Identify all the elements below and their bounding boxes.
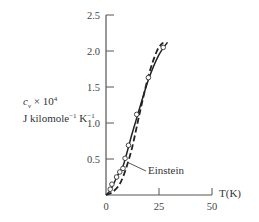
y-title-exp-b: −1 (87, 112, 94, 120)
data-point-marker (114, 175, 119, 180)
data-point-marker (123, 156, 128, 161)
data-point-marker (110, 182, 115, 187)
einstein-label: Einstein (148, 164, 185, 176)
einstein-leader-line (129, 163, 146, 171)
y-title-times: × 10 (31, 95, 54, 107)
data-point-marker (121, 166, 126, 171)
ytick-label-2.0: 2.0 (87, 46, 100, 57)
xtick-label-25: 25 (154, 201, 165, 212)
data-point-marker (161, 45, 166, 50)
x-axis-title: T(K) (219, 187, 241, 200)
data-point-marker (146, 75, 151, 80)
y-axis-title: cv × 104 J kilomole−1 K−1 (23, 95, 95, 124)
y-title-K: K (77, 112, 88, 124)
ytick-label-0.5: 0.5 (87, 154, 100, 165)
x-ticks (159, 188, 212, 195)
data-point-marker (126, 143, 131, 148)
xtick-label-50: 50 (207, 201, 218, 212)
y-ticks (106, 15, 114, 159)
data-point-marker (134, 112, 139, 117)
ytick-label-2.5: 2.5 (87, 10, 100, 21)
y-title-exp-a: −1 (69, 112, 76, 120)
ytick-label-1.5: 1.5 (87, 82, 100, 93)
xtick-label-0: 0 (103, 201, 108, 212)
y-title-exp: 4 (54, 95, 58, 103)
data-point-marker (108, 187, 113, 192)
y-title-units: J kilomole (23, 112, 69, 124)
